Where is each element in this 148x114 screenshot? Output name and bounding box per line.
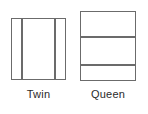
queen-horizontal-divider-2 [81,64,135,66]
queen-bed-figure [80,11,136,81]
twin-label: Twin [11,88,66,101]
bed-size-diagram: Twin Queen [0,0,148,114]
queen-horizontal-divider-1 [81,36,135,38]
twin-vertical-divider-1 [21,19,23,79]
queen-label: Queen [80,88,136,101]
twin-bed-figure [11,18,66,80]
twin-vertical-divider-2 [54,19,56,79]
